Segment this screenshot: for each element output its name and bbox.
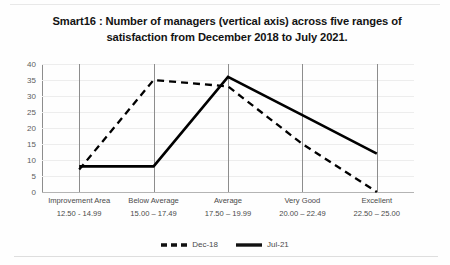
gridline-0: 0: [42, 192, 414, 193]
x-category-name: Excellent: [340, 196, 414, 206]
x-category-improvement-area: Improvement Area 12.50 - 14.99: [42, 196, 116, 220]
y-tick-label-25: 25: [27, 108, 36, 117]
bottom-divider: [14, 256, 438, 257]
x-category-name: Very Good: [265, 196, 339, 206]
x-axis-labels: Improvement Area 12.50 - 14.99 Below Ave…: [42, 196, 414, 240]
chart-title-line-1: Smart16 : Number of managers (vertical a…: [52, 15, 349, 27]
legend-item-dec-18[interactable]: Dec-18: [161, 240, 218, 249]
y-tick-label-5: 5: [32, 172, 36, 181]
x-category-range: 22.50 – 25.00: [340, 209, 414, 219]
x-category-average: Average 17.50 – 19.99: [191, 196, 265, 220]
solid-line-icon: [236, 242, 262, 248]
x-category-very-good: Very Good 20.00 – 22.49: [265, 196, 339, 220]
top-divider: [10, 4, 440, 5]
x-category-range: 17.50 – 19.99: [191, 209, 265, 219]
series-line-dec-18: [79, 80, 377, 192]
y-tick-label-40: 40: [27, 60, 36, 69]
y-tick-label-20: 20: [27, 124, 36, 133]
x-category-range: 20.00 – 22.49: [265, 209, 339, 219]
chart-title: Smart16 : Number of managers (vertical a…: [52, 14, 402, 46]
legend-item-jul-21[interactable]: Jul-21: [236, 240, 289, 249]
y-tick-label-10: 10: [27, 156, 36, 165]
x-category-below-average: Below Average 15.00 – 17.49: [116, 196, 190, 220]
x-category-range: 12.50 - 14.99: [42, 209, 116, 219]
x-category-range: 15.00 – 17.49: [116, 209, 190, 219]
chart-card: Smart16 : Number of managers (vertical a…: [0, 0, 450, 265]
y-tick-label-30: 30: [27, 92, 36, 101]
x-category-name: Average: [191, 196, 265, 206]
y-tick-label-0: 0: [32, 188, 36, 197]
x-category-name: Below Average: [116, 196, 190, 206]
series-line-jul-21: [79, 77, 377, 167]
plot-area: 40 35 30 25 20 15 10 5 0: [42, 64, 414, 192]
y-tick-label-35: 35: [27, 76, 36, 85]
series-lines: [42, 64, 414, 192]
chart-legend: Dec-18 Jul-21: [0, 240, 450, 249]
legend-label-jul-21: Jul-21: [267, 240, 289, 249]
x-category-excellent: Excellent 22.50 – 25.00: [340, 196, 414, 220]
legend-label-dec-18: Dec-18: [192, 240, 218, 249]
y-tick-label-15: 15: [27, 140, 36, 149]
dashed-line-icon: [161, 242, 187, 248]
x-category-name: Improvement Area: [42, 196, 116, 206]
